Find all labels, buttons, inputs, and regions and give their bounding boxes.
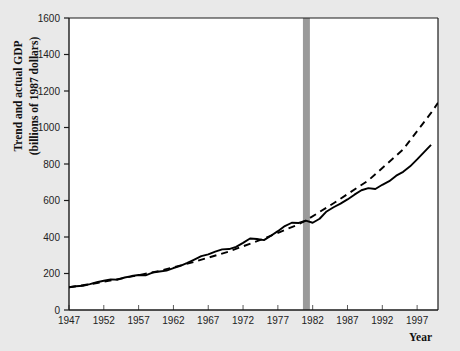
x-tick-label: 1957 [127,315,150,326]
y-tick-label: 200 [43,268,60,279]
gdp-trend-chart: 02004006008001000120014001600 1947195219… [0,0,460,351]
x-tick-label: 1987 [336,315,359,326]
break-band [303,18,310,310]
x-tick-label: 1992 [371,315,394,326]
plot-area-background [69,18,438,310]
y-tick-label: 1200 [38,86,61,97]
chart-canvas: 02004006008001000120014001600 1947195219… [0,0,460,351]
x-tick-label: 1952 [93,315,116,326]
y-axis-title-line2: (billions of 1987 dollars) [28,37,41,156]
x-axis-title: Year [409,331,432,343]
y-tick-label: 1600 [38,13,61,24]
x-tick-label: 1972 [232,315,255,326]
y-tick-label: 800 [43,159,60,170]
y-tick-label: 1000 [38,122,61,133]
y-axis-title-line1: Trend and actual GDP [12,40,24,151]
x-tick-label: 1962 [162,315,185,326]
x-tick-label: 1947 [58,315,81,326]
x-tick-label: 1982 [302,315,325,326]
y-tick-label: 0 [54,305,60,316]
x-tick-label-group: 1947195219571962196719721977198219871992… [58,315,429,326]
x-tick-label: 1997 [406,315,429,326]
x-tick-label: 1977 [267,315,290,326]
y-tick-label: 600 [43,195,60,206]
y-tick-label: 1400 [38,49,61,60]
y-tick-label: 400 [43,232,60,243]
x-tick-label: 1967 [197,315,220,326]
recession-band-group [303,18,310,310]
